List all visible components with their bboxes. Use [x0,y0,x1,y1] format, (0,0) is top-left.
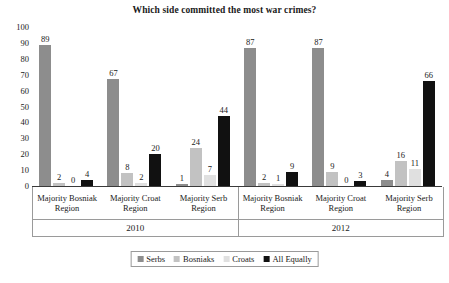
category-label: Majority Croat Region [307,187,375,219]
bar[interactable] [135,183,147,186]
legend-item[interactable]: Croats [223,254,254,264]
bar-column[interactable]: 4 [381,27,393,186]
bar-value-label: 3 [347,171,373,180]
legend-item[interactable]: All Equally [263,254,311,264]
legend-label: All Equally [272,254,311,264]
bar-group: 678220 [100,27,168,186]
year-label: 2012 [239,219,444,236]
bar-column[interactable]: 2 [258,27,270,186]
bar-group: 87903 [305,27,373,186]
bar[interactable] [409,169,421,186]
legend-label: Bosniaks [183,254,214,264]
year-label-row: 20102012 [32,219,444,237]
bar-column[interactable]: 9 [326,27,338,186]
bar-column[interactable]: 2 [135,27,147,186]
y-axis-tick: 60 [0,87,29,96]
bar-column[interactable]: 87 [244,27,256,186]
bar-value-label: 66 [416,71,442,80]
category-label: Majority Bosniak Region [239,187,307,219]
bar-value-label: 44 [211,106,237,115]
bar-value-label: 9 [279,162,305,171]
bar-column[interactable]: 9 [286,27,298,186]
legend-item[interactable]: Serbs [137,254,165,264]
legend-item[interactable]: Bosniaks [174,254,214,264]
bar-column[interactable]: 89 [39,27,51,186]
bar[interactable] [272,184,284,186]
bar-column[interactable]: 20 [149,27,161,186]
bar-column[interactable]: 24 [190,27,202,186]
category-label-row: Majority Bosniak RegionMajority Croat Re… [32,187,444,220]
y-axis-tick: 10 [0,166,29,175]
category-label: Majority Serb Region [375,187,443,219]
y-axis-tick: 30 [0,134,29,143]
y-axis-tick: 80 [0,55,29,64]
y-axis-tick: 40 [0,118,29,127]
chart-title: Which side committed the most war crimes… [0,5,449,15]
bar-value-label: 4 [74,170,100,179]
legend-label: Serbs [146,254,165,264]
bar-column[interactable]: 1 [176,27,188,186]
category-label: Majority Serb Region [169,187,238,219]
y-axis-tick: 20 [0,150,29,159]
bar-group: 87219 [237,27,305,186]
bar[interactable] [218,116,230,186]
bar-column[interactable]: 3 [354,27,366,186]
legend-swatch-icon [174,256,180,262]
y-axis-tick: 90 [0,39,29,48]
bar-column[interactable]: 67 [107,27,119,186]
legend-swatch-icon [263,256,269,262]
legend-swatch-icon [223,256,229,262]
bar[interactable] [149,154,161,186]
bar[interactable] [81,180,93,186]
bar[interactable] [354,181,366,186]
chart-container: Which side committed the most war crimes… [0,0,449,283]
y-axis-tick: 70 [0,71,29,80]
bar-column[interactable]: 2 [53,27,65,186]
bar[interactable] [244,48,256,186]
bar-column[interactable]: 4 [81,27,93,186]
bar-groups: 8920467822012474487219879034161166 [32,27,442,186]
bar-group: 124744 [169,27,237,186]
bar[interactable] [204,175,216,186]
bar[interactable] [286,172,298,186]
bar-column[interactable]: 8 [121,27,133,186]
y-axis-tick: 50 [0,103,29,112]
category-label: Majority Bosniak Region [33,187,101,219]
category-label: Majority Croat Region [101,187,169,219]
bar-group: 89204 [32,27,100,186]
y-axis-tick-labels: 1009080706050403020100 [0,22,29,192]
bar[interactable] [381,180,393,186]
bar-column[interactable]: 66 [423,27,435,186]
legend-swatch-icon [137,256,143,262]
bar-column[interactable]: 0 [340,27,352,186]
bar-column[interactable]: 0 [67,27,79,186]
legend-label: Croats [232,254,254,264]
bar-column[interactable]: 44 [218,27,230,186]
bar-value-label: 20 [142,144,168,153]
chart-legend: SerbsBosniaksCroatsAll Equally [130,251,319,267]
year-label: 2010 [33,219,239,236]
y-axis-tick: 100 [0,23,29,32]
bar[interactable] [423,81,435,186]
bar[interactable] [39,45,51,187]
bar[interactable] [176,184,188,186]
bar-group: 4161166 [374,27,442,186]
bar-column[interactable]: 11 [409,27,421,186]
y-axis-tick: 0 [0,182,29,191]
figure-caption [5,275,445,283]
